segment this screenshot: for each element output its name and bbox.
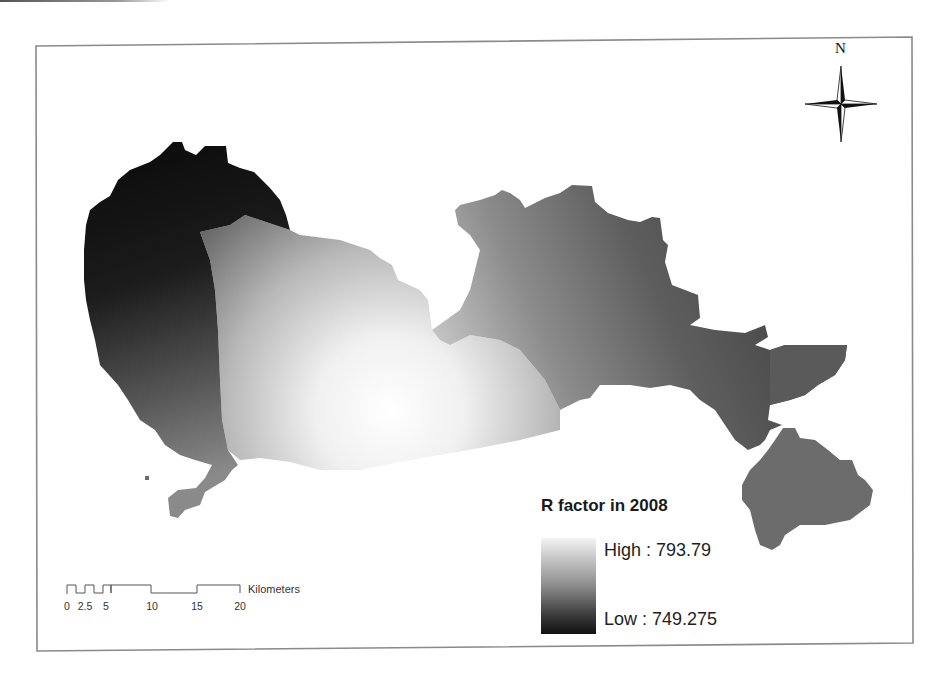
scale-bar xyxy=(67,585,240,594)
region-east-lobe xyxy=(770,345,847,405)
scale-tick-15: 15 xyxy=(191,600,203,612)
legend-high-label: High : 793.79 xyxy=(604,540,711,561)
legend-title: R factor in 2008 xyxy=(541,496,668,516)
scale-tick-2-5: 2.5 xyxy=(78,600,93,612)
north-arrow-icon xyxy=(805,66,877,142)
scale-tick-5: 5 xyxy=(103,600,109,612)
map-canvas xyxy=(0,0,947,679)
legend-low-label: Low : 749.275 xyxy=(604,609,717,630)
legend-color-ramp xyxy=(541,538,596,634)
scale-bar-unit: Kilometers xyxy=(248,583,300,595)
region-southeast xyxy=(742,428,873,550)
region-islet xyxy=(145,476,149,480)
scale-tick-20: 20 xyxy=(234,600,246,612)
scale-tick-0: 0 xyxy=(64,600,70,612)
scale-tick-10: 10 xyxy=(146,600,158,612)
north-label: N xyxy=(835,40,846,57)
